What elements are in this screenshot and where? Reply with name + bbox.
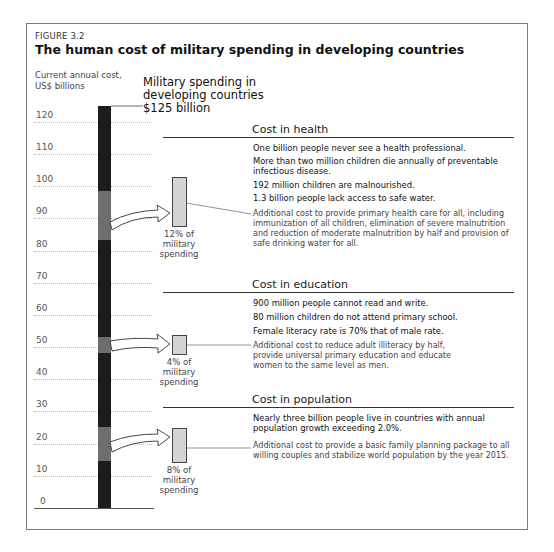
health-fact: One billion people never see a health pr… <box>253 143 523 153</box>
pct-line: military <box>152 239 206 249</box>
education-share-label: 4% of military spending <box>152 357 206 387</box>
health-heading: Cost in health <box>252 123 328 136</box>
health-arrow-icon <box>110 205 170 230</box>
population-rule <box>163 407 514 408</box>
education-note: Additional cost to reduce adult illitera… <box>253 341 453 371</box>
health-fact: 1.3 billion people lack access to safe w… <box>253 193 523 203</box>
education-fact: 900 million people cannot read and write… <box>253 298 523 308</box>
health-fact: 192 million children are malnourished. <box>253 180 523 190</box>
education-fact: 80 million children do not attend primar… <box>253 312 523 322</box>
education-arrow-icon <box>110 334 170 353</box>
pct-line: spending <box>152 485 206 495</box>
pct-line: 4% of <box>152 357 206 367</box>
pct-line: 8% of <box>152 465 206 475</box>
population-note: Additional cost to provide a basic famil… <box>253 441 518 461</box>
population-fact: Nearly three billion people live in coun… <box>253 413 523 433</box>
health-share-label: 12% of military spending <box>152 229 206 259</box>
pct-line: military <box>152 367 206 377</box>
health-fact: More than two million children die annua… <box>253 156 523 176</box>
pct-line: 12% of <box>152 229 206 239</box>
education-share-box <box>172 335 187 355</box>
population-share-label: 8% of military spending <box>152 465 206 495</box>
health-note: Additional cost to provide primary healt… <box>253 209 518 249</box>
education-rule <box>163 292 514 293</box>
health-share-box <box>172 177 187 227</box>
pct-line: military <box>152 475 206 485</box>
pct-line: spending <box>152 377 206 387</box>
pct-line: spending <box>152 249 206 259</box>
education-heading: Cost in education <box>252 278 348 291</box>
health-note-leader <box>186 203 251 214</box>
education-fact: Female literacy rate is 70% that of male… <box>253 326 523 336</box>
health-rule <box>163 137 514 138</box>
chart-connectors <box>0 0 554 552</box>
population-share-box <box>172 428 187 463</box>
population-heading: Cost in population <box>252 393 352 406</box>
population-arrow-icon <box>110 429 170 452</box>
